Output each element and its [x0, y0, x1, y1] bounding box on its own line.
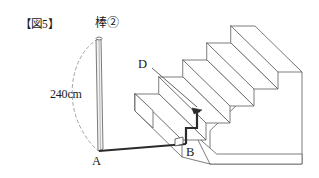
figure-5-diagram: 【図5】 棒② 240cm A B D — [0, 0, 319, 178]
right-angle-icon — [175, 137, 183, 146]
point-b-label: B — [186, 146, 194, 159]
point-a-label: A — [92, 155, 101, 168]
vertical-rod — [96, 37, 103, 151]
rod-top-cap — [96, 37, 102, 40]
figure-title: 【図5】 — [20, 19, 59, 31]
rod-length-label: 240cm — [50, 88, 82, 100]
staircase-solid — [135, 26, 302, 164]
rod-label: 棒② — [95, 17, 119, 29]
point-d-label: D — [138, 58, 147, 71]
